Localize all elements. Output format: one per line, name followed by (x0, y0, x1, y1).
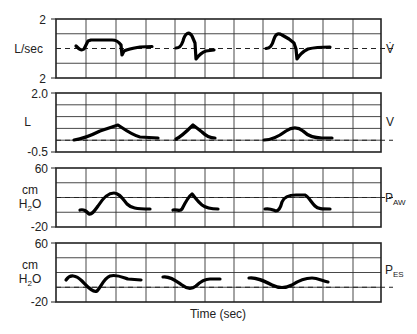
esophageal-pressure-right-label: PES (385, 263, 404, 279)
airway-pressure-right-label: PAW (385, 191, 406, 207)
volume-panel: 2.0 -0.5 L V (24, 87, 394, 159)
airway-pressure-panel: 60 -20 cm H2O PAW (19, 162, 406, 234)
volume-ylabel: L (24, 115, 31, 129)
airway-pressure-ytick-top: 60 (35, 162, 49, 176)
x-axis-label: Time (sec) (190, 307, 246, 321)
esophageal-pressure-ylabel-h2o: H2O (19, 272, 41, 288)
volume-right-label: V (386, 115, 394, 129)
flow-trace (76, 33, 330, 59)
esophageal-pressure-ylabel-unit: cm (22, 258, 38, 272)
flow-panel: 2 2 L/sec V̇ (14, 13, 394, 86)
esophageal-pressure-ytick-bottom: -20 (31, 295, 49, 309)
esophageal-pressure-trace (66, 275, 328, 291)
flow-ylabel: L/sec (14, 42, 43, 56)
esophageal-pressure-panel: 60 -20 cm H2O PES (19, 237, 404, 309)
airway-pressure-ylabel-unit: cm (22, 183, 38, 197)
esophageal-pressure-ytick-top: 60 (35, 237, 49, 251)
airway-pressure-ylabel-h2o: H2O (19, 197, 41, 213)
volume-ytick-top: 2.0 (31, 87, 48, 101)
flow-ytick-bottom: 2 (39, 72, 46, 86)
volume-ytick-bottom: -0.5 (27, 145, 48, 159)
waveform-figure: 2 2 L/sec V̇ 2.0 -0.5 L V 60 -20 cm H (0, 0, 417, 334)
flow-ytick-top: 2 (39, 13, 46, 27)
flow-right-label: V̇ (386, 42, 394, 56)
airway-pressure-ytick-bottom: -20 (31, 220, 49, 234)
